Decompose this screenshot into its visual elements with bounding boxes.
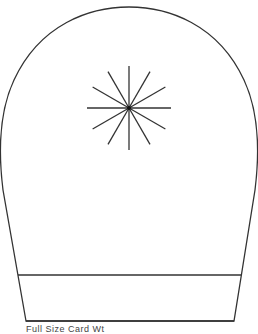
caption-label: Full Size Card Wt [26,324,105,334]
star-center [127,106,131,110]
star-icon [87,66,171,150]
outline-shape [1,7,258,321]
